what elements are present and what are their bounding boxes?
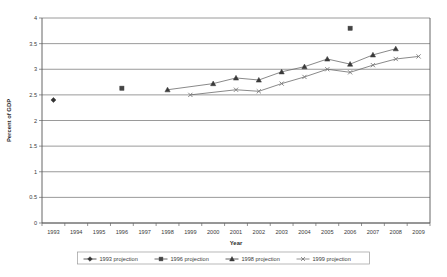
x-tick-label: 2006 [344, 229, 356, 235]
y-tick-label: 0 [34, 220, 37, 226]
chart-container: 1993199419951996199719981999200020012002… [0, 0, 447, 277]
x-axis-title: Year [230, 240, 243, 246]
y-tick-label: 2.5 [29, 92, 37, 98]
y-tick-label: 0.5 [29, 194, 37, 200]
x-tick-label: 1998 [161, 229, 173, 235]
legend-item-label: 1996 projection [171, 256, 209, 262]
x-tick-label: 2007 [367, 229, 379, 235]
chart-background [0, 0, 447, 277]
x-tick-label: 2005 [321, 229, 333, 235]
x-tick-label: 2008 [390, 229, 402, 235]
x-tick-label: 1999 [184, 229, 196, 235]
x-tick-label: 2001 [230, 229, 242, 235]
x-tick-label: 2003 [275, 229, 287, 235]
legend-item-label: 1993 projection [100, 256, 138, 262]
x-tick-label: 1994 [70, 229, 82, 235]
x-tick-label: 1997 [138, 229, 150, 235]
x-tick-label: 2000 [207, 229, 219, 235]
x-tick-label: 1993 [47, 229, 59, 235]
data-point-square-marker [120, 86, 124, 90]
x-tick-label: 2002 [253, 229, 265, 235]
x-tick-label: 2004 [298, 229, 310, 235]
legend-item-label: 1999 projection [313, 256, 351, 262]
gdp-projection-chart: 1993199419951996199719981999200020012002… [0, 0, 447, 277]
x-tick-label: 1996 [116, 229, 128, 235]
x-tick-labels: 1993199419951996199719981999200020012002… [47, 229, 425, 235]
y-tick-label: 3.5 [29, 41, 37, 47]
x-tick-label: 1995 [93, 229, 105, 235]
y-axis-title: Percent of GDP [6, 99, 12, 142]
x-tick-label: 2009 [412, 229, 424, 235]
y-tick-label: 1.5 [29, 143, 37, 149]
y-tick-label: 4 [34, 15, 37, 21]
y-tick-label: 2 [34, 118, 37, 124]
data-point-square-marker [159, 257, 163, 261]
legend-item-label: 1998 projection [242, 256, 280, 262]
data-point-square-marker [348, 26, 352, 30]
y-tick-label: 1 [34, 169, 37, 175]
y-tick-label: 3 [34, 66, 37, 72]
